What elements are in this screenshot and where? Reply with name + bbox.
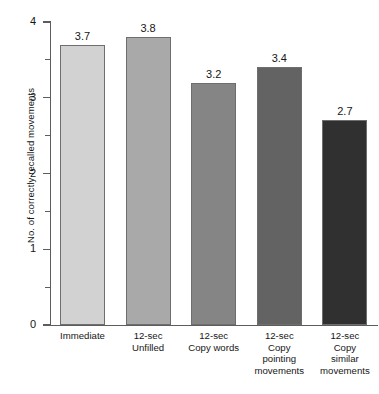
x-tick-label-line: movements: [306, 365, 379, 377]
y-tick-minor: [45, 135, 50, 136]
bar-chart: No. of correctly recalled movements 0123…: [0, 0, 379, 394]
y-tick-label: 4: [6, 15, 36, 27]
y-tick-major: [43, 21, 50, 22]
y-axis-line: [50, 21, 51, 326]
y-tick-label: 3: [6, 91, 36, 103]
x-axis-line: [50, 325, 378, 326]
bar: [191, 83, 236, 325]
y-tick-label: 2: [6, 167, 36, 179]
bar-value-label: 3.4: [249, 52, 309, 64]
y-tick-major: [43, 97, 50, 98]
bar-value-label: 3.7: [53, 30, 113, 42]
x-tick-label-line: similar: [306, 353, 379, 365]
y-tick-label: 1: [6, 242, 36, 254]
bar-value-label: 3.2: [184, 68, 244, 80]
x-tick-label: 12-secCopysimilarmovements: [306, 330, 379, 376]
y-tick-minor: [45, 287, 50, 288]
bar: [322, 120, 367, 325]
y-tick-major: [43, 249, 50, 250]
x-tick-label-line: 12-sec: [306, 330, 379, 342]
y-tick-label: 0: [6, 318, 36, 330]
bar: [257, 67, 302, 325]
bar: [60, 45, 105, 325]
y-tick-major: [43, 173, 50, 174]
bar-value-label: 3.8: [118, 22, 178, 34]
bar: [126, 37, 171, 325]
x-tick-label-line: Copy: [306, 342, 379, 354]
y-tick-major: [43, 324, 50, 325]
y-tick-minor: [45, 59, 50, 60]
bar-value-label: 2.7: [315, 105, 375, 117]
y-tick-minor: [45, 211, 50, 212]
